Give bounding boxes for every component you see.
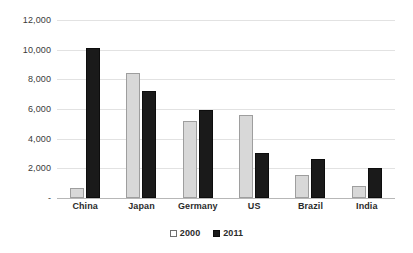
x-tick-label: US (226, 201, 282, 217)
y-tick-label: 2,000 (28, 163, 51, 173)
y-tick-label: 8,000 (28, 74, 51, 84)
y-tick-label: 6,000 (28, 104, 51, 114)
x-tick-label: India (339, 201, 395, 217)
bar-group (57, 20, 113, 198)
y-axis: 12,000 10,000 8,000 6,000 4,000 2,000 - (0, 20, 51, 199)
x-tick-label: Japan (113, 201, 169, 217)
x-tick-label: Germany (170, 201, 226, 217)
y-tick-label: - (48, 193, 51, 203)
bar-germany-2000[interactable] (183, 121, 197, 198)
legend-item-2011[interactable]: 2011 (213, 228, 243, 238)
x-tick-label: China (57, 201, 113, 217)
open-square-swatch (170, 230, 177, 237)
bar-china-2011[interactable] (86, 48, 100, 198)
bar-japan-2011[interactable] (142, 91, 156, 198)
bar-china-2000[interactable] (70, 188, 84, 198)
bar-india-2000[interactable] (352, 186, 366, 198)
bar-us-2000[interactable] (239, 115, 253, 198)
bar-us-2011[interactable] (255, 153, 269, 198)
legend-label: 2011 (223, 228, 243, 238)
bar-chart: 12,000 10,000 8,000 6,000 4,000 2,000 - … (0, 0, 413, 253)
bar-group (113, 20, 169, 198)
legend-item-2000[interactable]: 2000 (170, 228, 200, 238)
x-tick-label: Brazil (282, 201, 338, 217)
bar-group (339, 20, 395, 198)
x-axis-labels: ChinaJapanGermanyUSBrazilIndia (57, 201, 395, 217)
bar-pair (282, 20, 338, 198)
bar-pair (57, 20, 113, 198)
bar-brazil-2000[interactable] (295, 175, 309, 198)
bar-india-2011[interactable] (368, 168, 382, 198)
bar-pair (170, 20, 226, 198)
bar-groups (57, 20, 395, 198)
bar-group (282, 20, 338, 198)
bar-germany-2011[interactable] (199, 110, 213, 198)
bar-group (226, 20, 282, 198)
filled-square-swatch (213, 230, 220, 237)
bar-pair (226, 20, 282, 198)
bar-brazil-2011[interactable] (311, 159, 325, 198)
bar-group (170, 20, 226, 198)
y-tick-label: 10,000 (23, 45, 51, 55)
x-axis-line (57, 198, 395, 199)
chart-legend: 20002011 (0, 228, 413, 238)
bar-pair (339, 20, 395, 198)
legend-label: 2000 (180, 228, 200, 238)
bar-japan-2000[interactable] (126, 73, 140, 198)
bar-pair (113, 20, 169, 198)
y-tick-label: 4,000 (28, 134, 51, 144)
y-tick-label: 12,000 (23, 15, 51, 25)
